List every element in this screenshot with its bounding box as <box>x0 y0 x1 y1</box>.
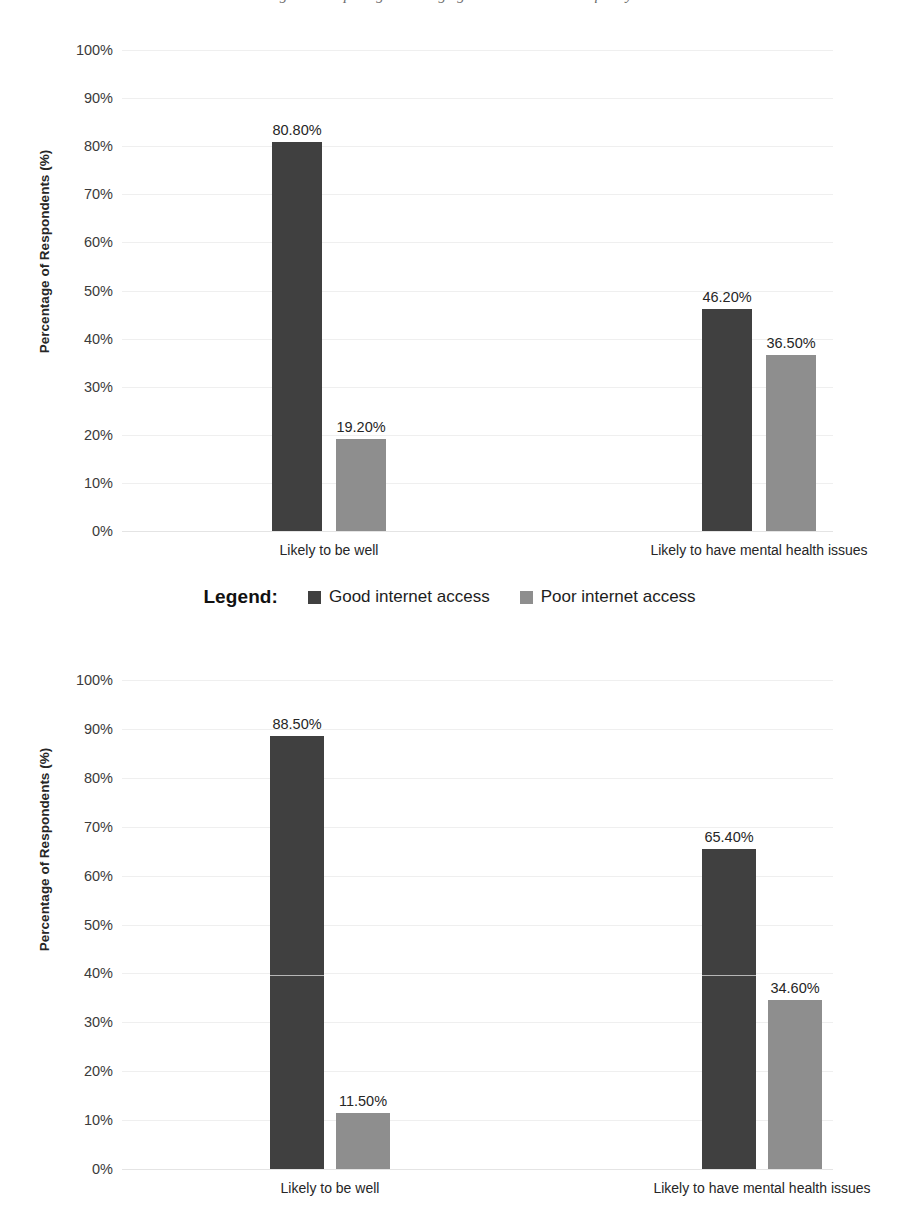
plot-area-top: 100%90%80%70%60%50%40%30%20%10%0%80.80%1… <box>122 50 833 531</box>
gridline <box>122 778 833 779</box>
bar[interactable]: 36.50% <box>766 355 816 531</box>
legend-label-poor: Poor internet access <box>541 587 696 607</box>
gridline <box>122 531 833 532</box>
legend: Legend: Good internet access Poor intern… <box>0 586 899 608</box>
bar[interactable]: 46.20% <box>702 309 752 531</box>
y-axis-tick-label: 10% <box>84 1112 113 1128</box>
legend-swatch-icon-light <box>520 591 533 604</box>
y-axis-tick-label: 10% <box>84 475 113 491</box>
bar[interactable]: 19.20% <box>336 439 386 531</box>
y-axis-tick-label: 30% <box>84 379 113 395</box>
bar-value-label: 36.50% <box>766 335 815 351</box>
y-axis-tick-label: 60% <box>84 234 113 250</box>
y-axis-tick-label: 0% <box>92 1161 113 1177</box>
bar-chart-bottom: Percentage of Respondents (%) 100%90%80%… <box>0 624 899 1184</box>
bar-value-label: 34.60% <box>770 980 819 996</box>
gridline <box>122 194 833 195</box>
legend-entry-poor-internet-access[interactable]: Poor internet access <box>520 587 696 607</box>
y-axis-tick-label: 60% <box>84 868 113 884</box>
y-axis-tick-label: 70% <box>84 819 113 835</box>
scan-artifact <box>702 975 756 976</box>
y-axis-tick-label: 70% <box>84 186 113 202</box>
y-axis-title: Percentage of Respondents (%) <box>37 720 52 980</box>
bar-value-label: 88.50% <box>272 716 321 732</box>
x-axis-category-label: Likely to have mental health issues <box>653 1180 870 1196</box>
y-axis-tick-label: 40% <box>84 965 113 981</box>
plot-area-bottom: 100%90%80%70%60%50%40%30%20%10%0%88.50%1… <box>122 680 833 1169</box>
bar[interactable]: 80.80% <box>272 142 322 531</box>
y-axis-tick-label: 0% <box>92 523 113 539</box>
gridline <box>122 729 833 730</box>
y-axis-tick-label: 50% <box>84 917 113 933</box>
gridline <box>122 50 833 51</box>
gridline <box>122 1169 833 1170</box>
bar[interactable]: 88.50% <box>270 736 324 1169</box>
gridline <box>122 98 833 99</box>
top-caption: Figure: Comparing wellbeing against inte… <box>0 0 899 3</box>
y-axis-tick-label: 100% <box>76 672 113 688</box>
gridline <box>122 146 833 147</box>
y-axis-tick-label: 90% <box>84 90 113 106</box>
gridline <box>122 827 833 828</box>
bar-value-label: 80.80% <box>272 122 321 138</box>
y-axis-tick-label: 20% <box>84 427 113 443</box>
bar[interactable]: 65.40% <box>702 849 756 1169</box>
x-axis-category-label: Likely to be well <box>281 1180 380 1196</box>
legend-label-good: Good internet access <box>329 587 490 607</box>
legend-entry-good-internet-access[interactable]: Good internet access <box>308 587 490 607</box>
bar[interactable]: 11.50% <box>336 1113 390 1169</box>
y-axis-tick-label: 80% <box>84 138 113 154</box>
y-axis-tick-label: 20% <box>84 1063 113 1079</box>
y-axis-tick-label: 40% <box>84 331 113 347</box>
legend-swatch-icon-dark <box>308 591 321 604</box>
gridline <box>122 680 833 681</box>
bar-value-label: 19.20% <box>336 419 385 435</box>
gridline <box>122 242 833 243</box>
bar[interactable]: 34.60% <box>768 1000 822 1169</box>
y-axis-tick-label: 100% <box>76 42 113 58</box>
scan-artifact <box>270 975 324 976</box>
bar-chart-top: Percentage of Respondents (%) 100%90%80%… <box>0 36 899 576</box>
bar-value-label: 11.50% <box>339 1093 387 1109</box>
y-axis-tick-label: 80% <box>84 770 113 786</box>
x-axis-category-label: Likely to be well <box>280 542 379 558</box>
x-axis-category-label: Likely to have mental health issues <box>650 542 867 558</box>
y-axis-tick-label: 30% <box>84 1014 113 1030</box>
bar-value-label: 65.40% <box>704 829 753 845</box>
y-axis-title: Percentage of Respondents (%) <box>37 122 52 382</box>
y-axis-tick-label: 90% <box>84 721 113 737</box>
bar-value-label: 46.20% <box>702 289 751 305</box>
y-axis-tick-label: 50% <box>84 283 113 299</box>
legend-title: Legend: <box>203 586 278 608</box>
